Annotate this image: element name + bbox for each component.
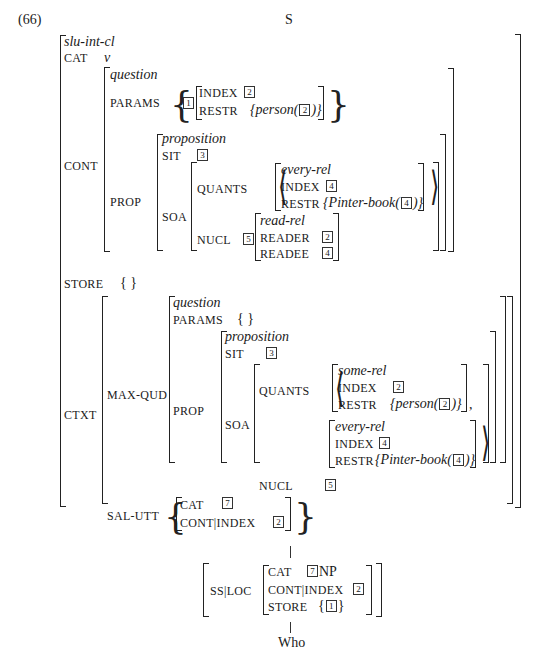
leaf-word: Who (278, 636, 305, 650)
avm-type: slu-int-cl (64, 35, 115, 49)
salutt-cat-tag: 7 (222, 497, 233, 509)
salutt-cat-attr: CAT (180, 499, 204, 511)
nucl-type: read-rel (260, 214, 305, 228)
daughter-store-attr: STORE (268, 601, 307, 613)
leaf-branch-line (290, 622, 291, 633)
maxqud-params-value: { } (237, 312, 254, 326)
prop-attr: PROP (110, 196, 141, 208)
ssloc-attr: SS|LOC (210, 585, 252, 597)
quant-type: every-rel (281, 163, 331, 177)
example-number: (66) (18, 13, 41, 27)
sit-attr: SIT (162, 150, 181, 162)
readee-tag: 4 (322, 247, 333, 259)
maxqud-prop-type: proposition (225, 330, 289, 344)
quant-restr-value: {Pinter-book(4)} (323, 196, 423, 210)
some-rel-index-tag: 2 (393, 381, 404, 393)
params-restr-attr: RESTR (199, 105, 238, 117)
maxqud-soa-attr: SOA (225, 419, 250, 431)
maxqud-params-attr: PARAMS (173, 314, 223, 326)
params-set-close-brace: } (327, 84, 350, 125)
quant-index-tag: 4 (326, 180, 337, 192)
nucl-tag: 5 (243, 233, 254, 245)
salutt-cont-attr: CONT|INDEX (180, 517, 255, 529)
every-rel-index-attr: INDEX (335, 438, 374, 450)
daughter-cat-attr: CAT (268, 566, 292, 578)
cat-attr: CAT (64, 52, 88, 64)
cat-value: v (104, 51, 110, 65)
every-rel-right-bracket (470, 420, 476, 468)
quants-list-close-angle: ⟩ (430, 163, 439, 209)
daughter-store-value: {1} (318, 599, 344, 613)
cont-type: question (110, 68, 157, 82)
quants-comma: , (469, 398, 473, 412)
maxqud-type: question (173, 296, 220, 310)
reader-attr: READER (260, 232, 310, 244)
nucl-attr: NUCL (197, 234, 231, 246)
reader-tag: 2 (322, 231, 333, 243)
quant-restr-attr: RESTR (281, 198, 320, 210)
maxqud-sit-tag: 3 (266, 347, 277, 359)
maxqud-sit-attr: SIT (225, 348, 244, 360)
quant-right-bracket (418, 163, 424, 211)
some-rel-type: some-rel (338, 364, 386, 378)
daughter-inner-right-bracket (366, 565, 372, 615)
outer-avm-left-bracket (60, 35, 66, 507)
readee-attr: READEE (260, 248, 309, 260)
maxqud-quants-attr: QUANTS (259, 385, 309, 397)
salutt-attr: SAL-UTT (107, 510, 159, 522)
maxqud-attr: MAX-QUD (107, 389, 167, 401)
maxqud-right-bracket (500, 296, 506, 463)
some-rel-index-attr: INDEX (338, 382, 377, 394)
params-index-attr: INDEX (199, 87, 238, 99)
cont-left-bracket (104, 67, 110, 252)
salutt-avm-right-bracket (285, 497, 291, 531)
quants-attr: QUANTS (197, 183, 247, 195)
params-attr: PARAMS (110, 97, 160, 109)
store-attr: STORE (64, 278, 103, 290)
every-rel-restr-attr: RESTR (335, 455, 374, 467)
cont-right-bracket (448, 68, 454, 252)
params-avm-right-bracket (318, 86, 324, 120)
some-rel-right-bracket (461, 364, 467, 412)
sit-tag: 3 (197, 149, 208, 161)
salutt-set-close-brace: } (294, 496, 317, 537)
daughter-cont-attr: CONT|INDEX (268, 584, 343, 596)
maxqud-prop-right-bracket (490, 331, 496, 463)
ctxt-right-bracket (507, 296, 513, 504)
maxqud-nucl-attr: NUCL (259, 480, 293, 492)
prop-type: proposition (162, 132, 226, 146)
every-rel-restr-value: {Pinter-book(4)} (375, 453, 475, 467)
daughter-cat-value: NP (319, 565, 337, 579)
params-restr-value: {person(2)} (250, 103, 322, 117)
daughter-cont-tag: 2 (353, 583, 364, 595)
prop-right-bracket (440, 134, 446, 251)
maxqud-soa-left-bracket (254, 364, 260, 463)
salutt-cont-tag: 2 (273, 516, 284, 528)
every-rel-type: every-rel (335, 420, 385, 434)
tree-branch-line (290, 546, 291, 558)
cont-attr: CONT (64, 160, 98, 172)
maxqud-nucl-tag: 5 (325, 479, 336, 491)
params-index-tag: 2 (244, 86, 255, 98)
maxqud-prop-attr: PROP (173, 405, 204, 417)
quant-index-attr: INDEX (281, 181, 320, 193)
some-rel-restr-attr: RESTR (338, 399, 377, 411)
daughter-right-bracket (376, 563, 382, 617)
daughter-cat-tag: 7 (307, 565, 318, 577)
nucl-right-bracket (333, 213, 339, 261)
some-rel-restr-value: {person(2)} (390, 397, 462, 411)
maxqud-quants-close-angle: ⟩ (481, 419, 490, 465)
params-tag: 1 (183, 97, 194, 109)
daughter-left-bracket (203, 563, 209, 617)
outer-avm-right-bracket (515, 34, 521, 508)
ctxt-attr: CTXT (64, 409, 97, 421)
root-node-label: S (285, 13, 293, 27)
every-rel-index-tag: 4 (379, 437, 390, 449)
store-value: { } (120, 276, 137, 290)
soa-attr: SOA (162, 211, 187, 223)
